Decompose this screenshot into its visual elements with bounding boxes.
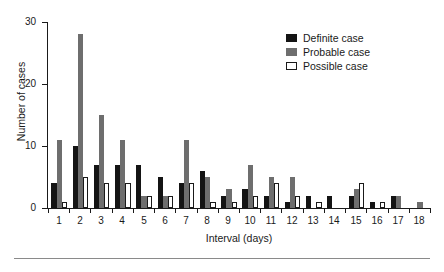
x-tick-mark bbox=[175, 209, 176, 213]
bar-possible-15 bbox=[359, 183, 364, 208]
x-tick-label: 11 bbox=[260, 215, 282, 226]
x-tick-mark bbox=[388, 209, 389, 213]
bar-group bbox=[48, 22, 69, 208]
bar-definite-16 bbox=[370, 202, 375, 208]
x-tick-mark bbox=[90, 209, 91, 213]
bar-group bbox=[260, 22, 281, 208]
bottom-divider bbox=[14, 258, 430, 259]
y-tick-mark bbox=[42, 22, 47, 23]
x-tick-mark bbox=[303, 209, 304, 213]
x-tick-label: 4 bbox=[111, 215, 133, 226]
bar-possible-12 bbox=[295, 196, 300, 208]
x-tick-label: 16 bbox=[366, 215, 388, 226]
bar-possible-5 bbox=[147, 196, 152, 208]
legend-swatch-possible-icon bbox=[286, 62, 297, 70]
bar-group bbox=[112, 22, 133, 208]
bar-group bbox=[409, 22, 430, 208]
bar-probable-1 bbox=[57, 140, 62, 208]
bar-group bbox=[133, 22, 154, 208]
bar-probable-17 bbox=[396, 196, 401, 208]
x-tick-mark bbox=[69, 209, 70, 213]
bar-group bbox=[388, 22, 409, 208]
x-tick-label: 9 bbox=[217, 215, 239, 226]
x-tick-label: 18 bbox=[408, 215, 430, 226]
bar-group bbox=[154, 22, 175, 208]
legend-swatch-definite-icon bbox=[286, 34, 297, 42]
bar-possible-16 bbox=[380, 202, 385, 208]
x-tick-label: 14 bbox=[323, 215, 345, 226]
bar-possible-3 bbox=[104, 183, 109, 208]
x-tick-label: 2 bbox=[69, 215, 91, 226]
bar-probable-18 bbox=[417, 202, 422, 208]
bar-group bbox=[218, 22, 239, 208]
bar-group bbox=[239, 22, 260, 208]
y-axis-title: Number of cases bbox=[16, 32, 27, 172]
x-tick-mark bbox=[345, 209, 346, 213]
bar-definite-13 bbox=[306, 196, 311, 208]
y-tick-label: 30 bbox=[2, 17, 36, 27]
plot-area bbox=[48, 22, 430, 208]
x-tick-label: 15 bbox=[345, 215, 367, 226]
x-tick-mark bbox=[133, 209, 134, 213]
x-tick-mark bbox=[48, 209, 49, 213]
legend-item-possible: Possible case bbox=[286, 59, 370, 73]
x-axis-title: Interval (days) bbox=[48, 232, 430, 244]
x-tick-label: 1 bbox=[48, 215, 70, 226]
bar-possible-2 bbox=[83, 177, 88, 208]
bar-possible-11 bbox=[274, 183, 279, 208]
bar-possible-13 bbox=[316, 202, 321, 208]
bar-group bbox=[197, 22, 218, 208]
x-tick-mark bbox=[366, 209, 367, 213]
bar-possible-6 bbox=[168, 196, 173, 208]
chart-legend: Definite caseProbable casePossible case bbox=[286, 31, 370, 73]
x-tick-label: 8 bbox=[196, 215, 218, 226]
bar-definite-14 bbox=[327, 196, 332, 208]
bar-possible-4 bbox=[125, 183, 130, 208]
x-tick-mark bbox=[430, 209, 431, 213]
bar-group bbox=[90, 22, 111, 208]
y-tick-label: 0 bbox=[2, 203, 36, 213]
x-tick-mark bbox=[218, 209, 219, 213]
legend-item-definite: Definite case bbox=[286, 31, 370, 45]
x-tick-label: 12 bbox=[281, 215, 303, 226]
x-tick-mark bbox=[281, 209, 282, 213]
x-tick-mark bbox=[260, 209, 261, 213]
bar-group bbox=[69, 22, 90, 208]
legend-swatch-probable-icon bbox=[286, 48, 297, 56]
bar-possible-7 bbox=[189, 183, 194, 208]
legend-label: Probable case bbox=[303, 46, 370, 59]
bar-possible-10 bbox=[253, 196, 258, 208]
x-tick-label: 17 bbox=[387, 215, 409, 226]
x-tick-mark bbox=[324, 209, 325, 213]
x-tick-label: 6 bbox=[154, 215, 176, 226]
x-tick-mark bbox=[239, 209, 240, 213]
bar-group bbox=[175, 22, 196, 208]
x-tick-label: 3 bbox=[90, 215, 112, 226]
x-tick-mark bbox=[112, 209, 113, 213]
legend-label: Possible case bbox=[303, 60, 368, 73]
x-tick-mark bbox=[409, 209, 410, 213]
bar-chart-figure: 0102030 123456789101112131415161718 Numb… bbox=[0, 0, 444, 272]
x-tick-label: 5 bbox=[133, 215, 155, 226]
x-tick-mark bbox=[197, 209, 198, 213]
y-tick-mark bbox=[42, 208, 47, 209]
bar-possible-9 bbox=[232, 202, 237, 208]
bar-possible-8 bbox=[210, 202, 215, 208]
x-tick-mark bbox=[154, 209, 155, 213]
x-tick-label: 13 bbox=[302, 215, 324, 226]
y-tick-mark bbox=[42, 146, 47, 147]
bar-possible-1 bbox=[62, 202, 67, 208]
legend-item-probable: Probable case bbox=[286, 45, 370, 59]
x-tick-label: 10 bbox=[239, 215, 261, 226]
legend-label: Definite case bbox=[303, 32, 364, 45]
y-tick-mark bbox=[42, 84, 47, 85]
x-tick-label: 7 bbox=[175, 215, 197, 226]
